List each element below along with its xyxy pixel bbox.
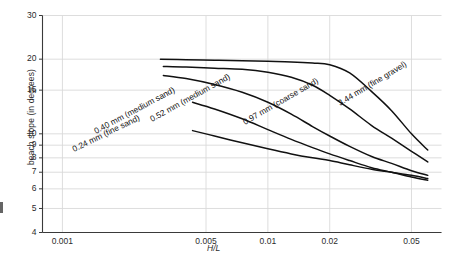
y-tick-label: 8 [11, 152, 37, 162]
chart-figure: 3.44 mm (fine gravel)0.97 mm (coarse san… [0, 0, 452, 261]
chart-plot-svg: 3.44 mm (fine gravel)0.97 mm (coarse san… [0, 0, 452, 261]
y-tick-label: 30 [11, 10, 37, 20]
y-tick-label: 7 [11, 166, 37, 176]
y-tick-label: 9 [11, 139, 37, 149]
x-tick-label: 0.001 [39, 236, 85, 246]
y-tick-label: 5 [11, 203, 37, 213]
y-tick-label: 6 [11, 183, 37, 193]
y-tick-label: 15 [11, 84, 37, 94]
x-tick-label: 0.005 [183, 236, 229, 246]
left-edge-artifact [0, 202, 3, 213]
x-tick-label: 0.02 [307, 236, 353, 246]
curve-labels: 3.44 mm (fine gravel)0.97 mm (coarse san… [70, 59, 408, 154]
curve-1 [163, 66, 427, 162]
curve-label-0: 3.44 mm (fine gravel) [336, 59, 409, 108]
y-tick-label: 20 [11, 53, 37, 63]
x-tick-label: 0.01 [245, 236, 291, 246]
y-tick-label: 10 [11, 128, 37, 138]
curve-4 [193, 131, 428, 179]
curve-3 [193, 102, 428, 180]
y-tick-label: 4 [11, 227, 37, 237]
x-tick-label: 0.05 [389, 236, 435, 246]
curve-label-1: 0.97 mm (coarse sand) [241, 75, 320, 126]
